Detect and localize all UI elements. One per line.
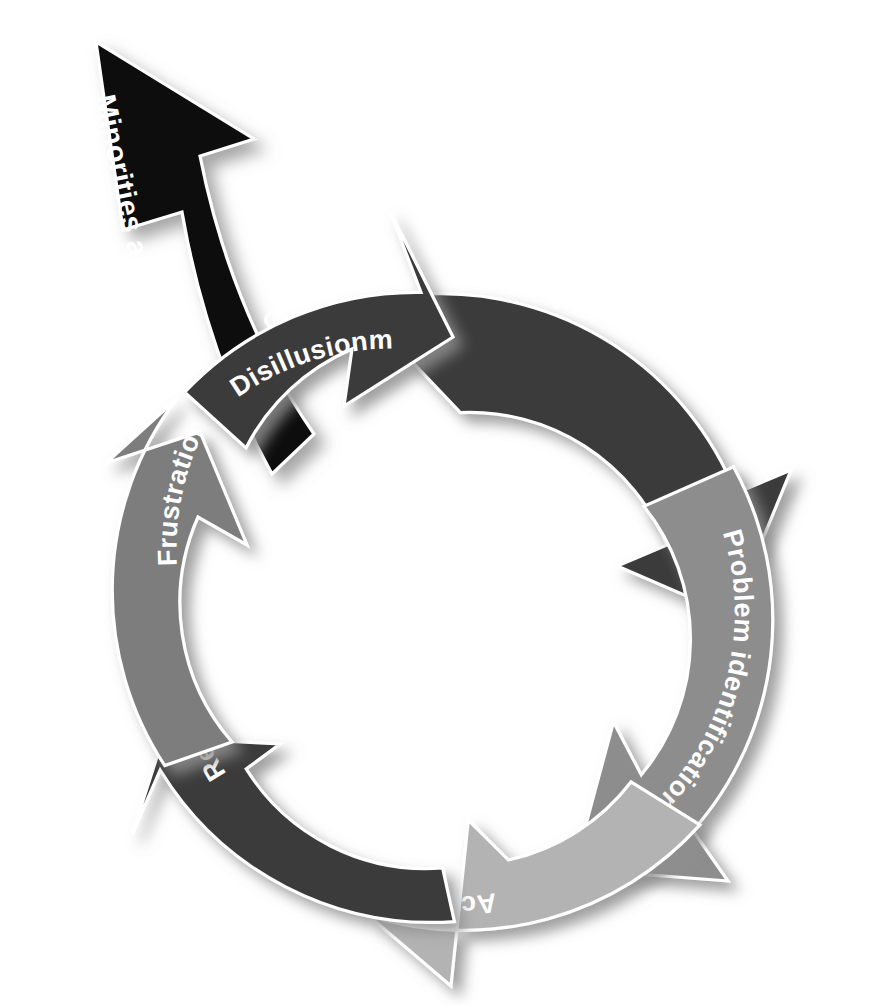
- cycle-diagram-canvas: Minorities and women leave the organizat…: [0, 0, 884, 1005]
- exit-arrow-minorities-women-leave[interactable]: Minorities and women leave the organizat…: [52, 42, 314, 474]
- segment-relaxation-shape: [132, 738, 454, 922]
- segment-frustration[interactable]: Frustration: [106, 399, 247, 766]
- segment-disillusionment[interactable]: Disillusionment: [0, 0, 453, 448]
- cycle-diagram: Minorities and women leave the organizat…: [0, 0, 884, 1005]
